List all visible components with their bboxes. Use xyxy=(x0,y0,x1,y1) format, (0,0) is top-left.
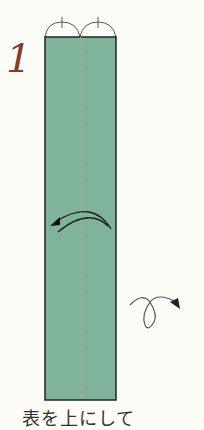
turn-over-icon xyxy=(130,297,176,328)
equal-division-arcs-icon xyxy=(45,17,116,37)
step-caption: 表を上にして xyxy=(22,404,135,430)
